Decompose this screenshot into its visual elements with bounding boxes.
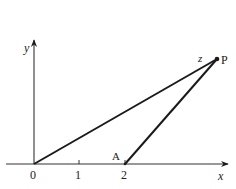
tick-label-0: 0	[30, 168, 36, 182]
complex-plane-diagram: y x 0 1 2 A P z	[0, 0, 236, 189]
z-label: z	[197, 52, 203, 64]
point-p-label: P	[221, 53, 228, 67]
x-axis-label: x	[217, 169, 224, 183]
tick-label-1: 1	[75, 168, 81, 182]
y-axis-label: y	[23, 41, 30, 55]
segment-origin-to-p	[34, 59, 217, 164]
segment-a-to-p	[125, 59, 217, 164]
point-a-label: A	[112, 150, 120, 162]
point-a	[124, 163, 127, 166]
point-p	[215, 57, 220, 62]
tick-label-2: 2	[121, 168, 127, 182]
